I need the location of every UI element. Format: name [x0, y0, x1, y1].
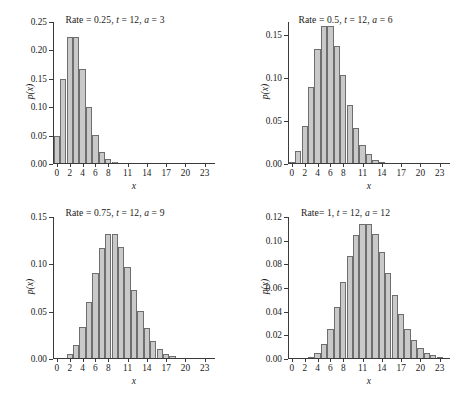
x-axis-tick	[128, 164, 129, 167]
x-axis-tick-label: 8	[106, 168, 111, 178]
y-axis-tick-label: 0.10	[266, 236, 282, 246]
x-axis-tick	[108, 359, 109, 362]
x-axis-line	[288, 163, 450, 164]
x-axis-tick	[440, 359, 441, 362]
x-axis-tick-label: 11	[123, 363, 132, 373]
x-axis-tick-label: 8	[106, 363, 111, 373]
x-axis-tick-label: 2	[302, 363, 307, 373]
y-axis-tick	[49, 136, 53, 137]
y-axis-line	[288, 217, 289, 359]
x-axis-line	[288, 358, 450, 359]
x-axis-tick	[363, 164, 364, 167]
y-axis-tick	[284, 121, 288, 122]
x-axis-tick	[330, 359, 331, 362]
y-axis-tick	[284, 335, 288, 336]
x-axis-tick-label: 23	[200, 168, 209, 178]
x-axis-tick	[83, 359, 84, 362]
y-axis-tick-label: 0.04	[266, 307, 282, 317]
y-axis-tick	[49, 359, 53, 360]
y-axis-tick	[284, 217, 288, 218]
x-axis-tick	[330, 164, 331, 167]
x-axis-tick	[382, 359, 383, 362]
x-axis-tick	[147, 164, 148, 167]
x-axis-label: x	[367, 180, 371, 191]
x-axis-tick	[95, 164, 96, 167]
x-axis-tick	[305, 359, 306, 362]
clipped-caption-strip	[0, 0, 461, 5]
x-axis-tick	[128, 359, 129, 362]
x-axis-tick	[343, 164, 344, 167]
x-axis-tick-label: 2	[67, 363, 72, 373]
x-axis-tick	[401, 359, 402, 362]
x-axis-label: x	[132, 375, 136, 386]
x-axis-tick-label: 0	[55, 363, 60, 373]
x-axis-tick-label: 0	[290, 168, 295, 178]
y-axis-line	[288, 22, 289, 164]
x-axis-tick-label: 11	[358, 168, 367, 178]
x-axis-line	[53, 358, 215, 359]
plot-area-3: 0.000.020.040.060.080.100.12024681114172…	[288, 217, 450, 359]
x-axis-tick	[440, 164, 441, 167]
x-axis-tick	[185, 164, 186, 167]
plot-area-2: 0.000.050.100.15024681114172023xp(x)	[53, 217, 215, 359]
x-axis-tick-label: 0	[290, 363, 295, 373]
chart-panel-1: Rate = 0.5, t = 12, a = 6 0.000.050.100.…	[230, 8, 461, 201]
chart-panel-0: Rate = 0.25, t = 12, a = 3 0.000.050.100…	[0, 8, 230, 201]
y-axis-tick	[284, 241, 288, 242]
x-axis-tick	[318, 359, 319, 362]
y-axis-tick-label: 0.00	[31, 354, 47, 364]
x-axis-tick	[292, 359, 293, 362]
y-axis-tick-label: 0.00	[31, 159, 47, 169]
y-axis-tick-label: 0.00	[266, 354, 282, 364]
y-axis-line	[53, 22, 54, 164]
y-axis-tick	[284, 78, 288, 79]
x-axis-tick-label: 6	[328, 363, 333, 373]
x-axis-tick	[83, 164, 84, 167]
x-axis-tick	[185, 359, 186, 362]
x-axis-tick-label: 17	[396, 168, 405, 178]
y-axis-tick-label: 0.05	[266, 116, 282, 126]
x-axis-tick-label: 0	[55, 168, 60, 178]
y-axis-tick	[284, 35, 288, 36]
x-axis-tick	[205, 359, 206, 362]
chart-panel-2: Rate = 0.75, t = 12, a = 9 0.000.050.100…	[0, 201, 230, 399]
y-axis-label: p(x)	[24, 72, 35, 112]
x-axis-tick-label: 11	[358, 363, 367, 373]
x-axis-tick	[57, 164, 58, 167]
chart-panel-3: Rate= 1, t = 12, a = 12 0.000.020.040.06…	[230, 201, 461, 399]
y-axis-tick-label: 0.15	[266, 30, 282, 40]
x-axis-tick-label: 6	[328, 168, 333, 178]
y-axis-tick-label: 0.15	[31, 212, 47, 222]
x-axis-tick-label: 8	[341, 363, 346, 373]
y-axis-tick	[49, 107, 53, 108]
y-axis-tick-label: 0.00	[266, 159, 282, 169]
x-axis-tick-label: 4	[315, 168, 320, 178]
x-axis-tick-label: 17	[161, 363, 170, 373]
x-axis-tick-label: 17	[161, 168, 170, 178]
x-axis-tick-label: 23	[435, 168, 444, 178]
y-axis-tick-label: 0.02	[266, 330, 282, 340]
x-axis-tick-label: 8	[341, 168, 346, 178]
x-axis-tick-label: 6	[93, 168, 98, 178]
y-axis-tick-label: 0.20	[31, 45, 47, 55]
y-axis-tick	[284, 288, 288, 289]
x-axis-tick-label: 2	[302, 168, 307, 178]
x-axis-tick	[147, 359, 148, 362]
x-axis-tick	[70, 359, 71, 362]
y-axis-tick	[284, 312, 288, 313]
x-axis-tick-label: 14	[142, 168, 151, 178]
x-axis-tick	[318, 164, 319, 167]
x-axis-tick-label: 6	[93, 363, 98, 373]
y-axis-tick	[49, 264, 53, 265]
x-axis-line	[53, 163, 215, 164]
x-axis-tick-label: 23	[200, 363, 209, 373]
x-axis-tick-label: 14	[142, 363, 151, 373]
x-axis-tick	[57, 359, 58, 362]
x-axis-tick-label: 20	[416, 168, 425, 178]
x-axis-label: x	[132, 180, 136, 191]
x-axis-tick-label: 4	[80, 168, 85, 178]
x-axis-tick	[420, 164, 421, 167]
x-axis-tick-label: 20	[181, 363, 190, 373]
poisson-panel-grid: Rate = 0.25, t = 12, a = 3 0.000.050.100…	[0, 8, 461, 399]
y-axis-tick	[49, 312, 53, 313]
